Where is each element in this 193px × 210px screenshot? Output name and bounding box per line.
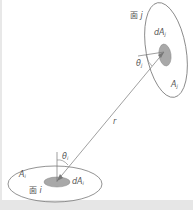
element-j-label: dAj <box>154 29 166 37</box>
face-i-label: 面 i <box>29 187 42 195</box>
element-i-label: dAi <box>72 178 84 186</box>
element-j-text: dA <box>154 28 165 37</box>
area-i-label: Ai <box>19 171 26 179</box>
element-i-sub: i <box>83 180 84 186</box>
face-j-char: 面 <box>130 11 138 20</box>
distance-line-r <box>57 52 164 181</box>
element-i-text: dA <box>72 177 83 186</box>
area-i-sub: i <box>24 173 25 179</box>
face-j-label: 面 j <box>130 12 143 20</box>
angle-j-label: θj <box>136 60 142 68</box>
element-j-sub: j <box>165 31 166 37</box>
angle-i-sub: i <box>67 155 68 161</box>
area-j-sub: j <box>176 83 177 89</box>
face-j-index: j <box>141 11 143 20</box>
face-i-char: 面 <box>29 186 37 195</box>
distance-r-label: r <box>113 118 116 126</box>
angle-i-label: θi <box>62 153 68 161</box>
angle-j-sub: j <box>141 62 142 68</box>
face-i-index: i <box>40 186 42 195</box>
area-j-label: Aj <box>171 81 178 89</box>
